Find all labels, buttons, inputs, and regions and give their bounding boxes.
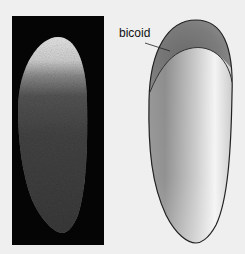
bicoid-label: bicoid: [119, 26, 150, 40]
figure: bicoid: [0, 0, 245, 254]
photo-embryo: [18, 37, 87, 233]
schematic-embryo: [140, 15, 240, 250]
